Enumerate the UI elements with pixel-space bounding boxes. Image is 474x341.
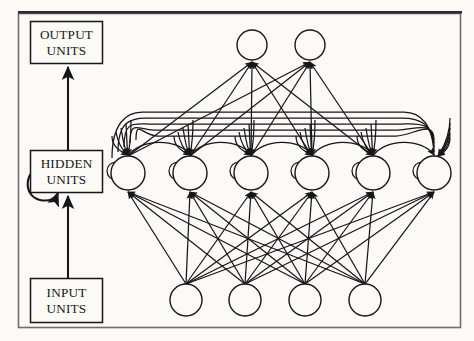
- input-unit: [349, 284, 381, 316]
- output-unit: [237, 30, 267, 60]
- input-units-label-line2: UNITS: [47, 301, 87, 316]
- hidden-unit: [295, 156, 329, 190]
- hidden-unit: [417, 156, 451, 190]
- input-units-box: INPUT UNITS: [31, 279, 103, 323]
- hidden-units-label-line1: HIDDEN: [41, 156, 93, 171]
- input-unit: [170, 284, 202, 316]
- output-unit: [295, 30, 325, 60]
- output-units-label-line1: OUTPUT: [40, 27, 93, 42]
- network-diagram: OUTPUT UNITS HIDDEN UNITS INPUT UNITS: [0, 0, 474, 341]
- figure-root: OUTPUT UNITS HIDDEN UNITS INPUT UNITS: [0, 0, 474, 341]
- hidden-unit: [173, 156, 207, 190]
- input-unit: [289, 284, 321, 316]
- input-unit: [229, 284, 261, 316]
- hidden-unit: [111, 156, 145, 190]
- input-units-label-line1: INPUT: [47, 285, 87, 300]
- output-units-label-line2: UNITS: [47, 43, 87, 58]
- hidden-units-label-line2: UNITS: [47, 172, 87, 187]
- hidden-units-box: HIDDEN UNITS: [31, 151, 103, 193]
- hidden-unit: [234, 156, 268, 190]
- hidden-unit: [356, 156, 390, 190]
- output-units-box: OUTPUT UNITS: [31, 22, 103, 64]
